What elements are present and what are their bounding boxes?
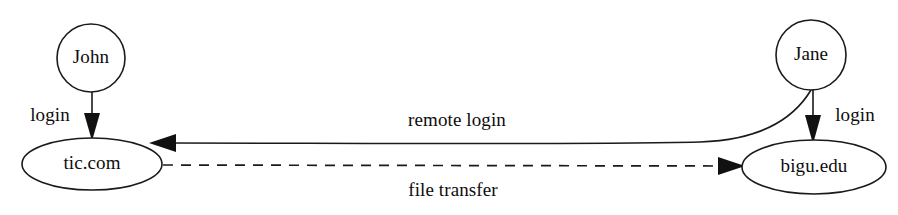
network-diagram: remote login file transfer login login J… [0,0,898,215]
file-transfer-path [163,165,718,166]
node-john[interactable]: John [57,24,125,92]
diagram-canvas: remote login file transfer login login J… [0,0,898,215]
edge-label-file-transfer: file transfer [408,179,498,200]
node-label-jane: Jane [794,43,828,64]
node-label-tic-com: tic.com [63,152,120,173]
node-tic-com[interactable]: tic.com [22,138,162,190]
remote-login-arrowhead [149,134,176,152]
edge-label-remote-login: remote login [408,109,506,130]
edge-file-transfer: file transfer [163,157,745,200]
edge-label-jane-login: login [835,104,875,125]
edge-john-login: login [30,92,100,141]
node-bigu-edu[interactable]: bigu.edu [742,140,886,194]
edge-label-john-login: login [30,104,70,125]
node-label-bigu-edu: bigu.edu [781,155,848,176]
john-login-arrowhead [84,113,100,141]
file-transfer-arrowhead [718,157,745,175]
edge-jane-login: login [805,89,875,144]
node-jane[interactable]: Jane [776,20,846,90]
edge-remote-login: remote login [149,90,811,152]
node-label-john: John [73,46,110,67]
